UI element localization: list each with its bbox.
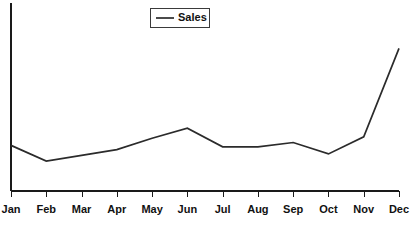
x-tick-label-nov: Nov [353, 203, 375, 215]
data-series-sales-line [11, 48, 399, 161]
x-tick-label-feb: Feb [36, 203, 56, 215]
x-tick-label-aug: Aug [247, 203, 268, 215]
chart-legend[interactable]: Sales [151, 9, 210, 28]
x-tick-label-sep: Sep [283, 203, 303, 215]
legend-label-sales: Sales [178, 11, 207, 23]
x-axis-tick-labels: JanFebMarAprMayJunJulAugSepOctNovDec [2, 203, 410, 215]
x-tick-label-oct: Oct [319, 203, 338, 215]
x-tick-label-mar: Mar [72, 203, 92, 215]
x-tick-label-dec: Dec [389, 203, 409, 215]
x-tick-label-jan: Jan [2, 203, 21, 215]
x-tick-label-jun: Jun [178, 203, 198, 215]
line-chart-figure: JanFebMarAprMayJunJulAugSepOctNovDec Sal… [0, 0, 413, 237]
x-tick-label-jul: Jul [215, 203, 231, 215]
plot-area: JanFebMarAprMayJunJulAugSepOctNovDec [2, 3, 410, 215]
x-tick-label-apr: Apr [107, 203, 127, 215]
x-axis-tick-marks [12, 191, 400, 197]
chart-canvas: JanFebMarAprMayJunJulAugSepOctNovDec Sal… [0, 0, 413, 237]
x-tick-label-may: May [141, 203, 163, 215]
